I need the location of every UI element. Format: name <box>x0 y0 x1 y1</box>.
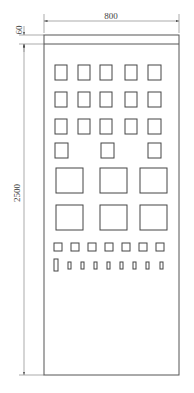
indicator <box>71 243 79 251</box>
meter <box>125 92 137 107</box>
switch <box>120 262 123 269</box>
meter <box>125 119 137 134</box>
meter <box>55 65 67 80</box>
large-meter <box>140 168 167 193</box>
indicator <box>122 243 130 251</box>
switch-row <box>54 259 163 271</box>
large-meter <box>140 205 167 230</box>
meter <box>78 119 90 134</box>
indicator <box>88 243 96 251</box>
switch <box>54 259 58 271</box>
meter <box>148 65 161 80</box>
switch <box>146 262 149 269</box>
meter <box>125 65 137 80</box>
switch <box>133 262 136 269</box>
width-label: 800 <box>104 11 118 21</box>
large-meter <box>56 205 83 230</box>
meter <box>148 119 161 134</box>
height-dimension: 2500 <box>12 44 44 375</box>
switch <box>68 262 71 269</box>
indicator <box>54 243 62 251</box>
switch <box>94 262 97 269</box>
indicator <box>156 243 164 251</box>
meter <box>55 143 68 158</box>
indicator <box>139 243 147 251</box>
meter <box>100 119 112 134</box>
width-dimension: 800 <box>44 11 179 33</box>
meter <box>100 65 112 80</box>
height-label: 2500 <box>12 184 22 203</box>
cabinet-drawing: 800 60 2500 <box>0 0 194 393</box>
meter <box>55 119 67 134</box>
switch <box>81 262 84 269</box>
meter <box>55 92 67 107</box>
meter-row-4 <box>55 143 161 158</box>
meter-rows-small <box>55 65 161 134</box>
large-meter <box>56 168 83 193</box>
top-strip-label: 60 <box>14 25 24 35</box>
large-meters <box>56 168 167 230</box>
large-meter <box>100 205 127 230</box>
switch <box>160 262 163 269</box>
top-strip-dimension: 60 <box>14 25 44 52</box>
meter <box>78 65 90 80</box>
large-meter <box>100 168 127 193</box>
switch <box>107 262 110 269</box>
indicator-row <box>54 243 164 251</box>
meter <box>101 143 114 158</box>
meter <box>148 143 161 158</box>
meter <box>148 92 161 107</box>
meter <box>100 92 112 107</box>
meter <box>78 92 90 107</box>
indicator <box>105 243 113 251</box>
